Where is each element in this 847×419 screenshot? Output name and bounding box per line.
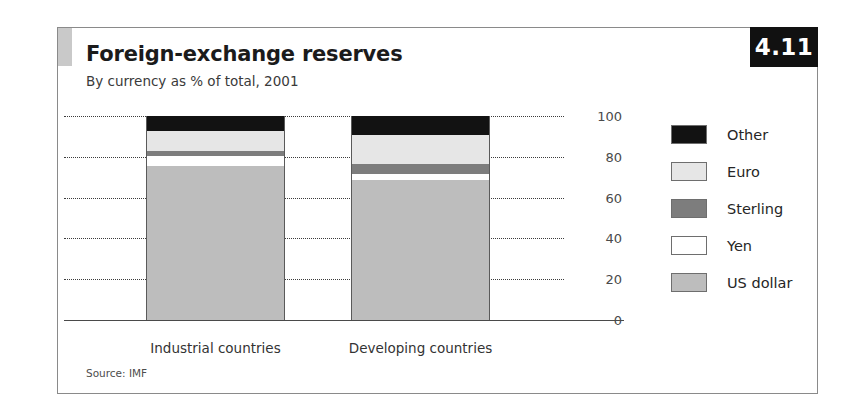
legend-item-euro[interactable]: Euro bbox=[671, 153, 821, 190]
bar-segment-sterling[interactable] bbox=[352, 164, 489, 174]
chart-legend: OtherEuroSterlingYenUS dollar bbox=[671, 116, 821, 301]
axis-baseline bbox=[64, 320, 624, 321]
legend-swatch-icon bbox=[671, 162, 707, 181]
legend-label: Other bbox=[727, 127, 768, 143]
bar-segment-us-dollar[interactable] bbox=[352, 180, 489, 320]
bar-segment-other[interactable] bbox=[352, 116, 489, 135]
figure-subtitle: By currency as % of total, 2001 bbox=[86, 73, 298, 89]
legend-label: US dollar bbox=[727, 275, 792, 291]
bar-segment-sterling[interactable] bbox=[147, 151, 284, 156]
source-note: Source: IMF bbox=[86, 367, 147, 379]
legend-item-us-dollar[interactable]: US dollar bbox=[671, 264, 821, 301]
bar-segment-yen[interactable] bbox=[147, 156, 284, 166]
y-tick-label-60: 60 bbox=[576, 190, 622, 205]
title-accent-strip bbox=[58, 28, 72, 66]
bar-segment-euro[interactable] bbox=[352, 135, 489, 164]
chart-plot-area: 100806040200 Industrial countriesDevelop… bbox=[64, 116, 634, 336]
figure-number-badge: 4.11 bbox=[750, 27, 818, 67]
legend-swatch-icon bbox=[671, 199, 707, 218]
y-tick-label-80: 80 bbox=[576, 149, 622, 164]
bar-segment-us-dollar[interactable] bbox=[147, 166, 284, 320]
legend-label: Yen bbox=[727, 238, 752, 254]
bar-segment-euro[interactable] bbox=[147, 131, 284, 150]
y-tick-label-40: 40 bbox=[576, 231, 622, 246]
category-label-2: Developing countries bbox=[321, 340, 521, 356]
bar-2[interactable] bbox=[351, 116, 490, 320]
legend-label: Sterling bbox=[727, 201, 783, 217]
legend-swatch-icon bbox=[671, 236, 707, 255]
legend-item-sterling[interactable]: Sterling bbox=[671, 190, 821, 227]
bar-1[interactable] bbox=[146, 116, 285, 320]
legend-item-yen[interactable]: Yen bbox=[671, 227, 821, 264]
y-tick-label-100: 100 bbox=[576, 109, 622, 124]
legend-label: Euro bbox=[727, 164, 760, 180]
page-title: Foreign-exchange reserves bbox=[86, 42, 402, 66]
bar-segment-yen[interactable] bbox=[352, 174, 489, 180]
figure-panel: 4.11 Foreign-exchange reserves By curren… bbox=[57, 27, 818, 394]
legend-item-other[interactable]: Other bbox=[671, 116, 821, 153]
legend-swatch-icon bbox=[671, 125, 707, 144]
bar-segment-other[interactable] bbox=[147, 116, 284, 131]
legend-swatch-icon bbox=[671, 273, 707, 292]
category-label-1: Industrial countries bbox=[116, 340, 316, 356]
y-tick-label-20: 20 bbox=[576, 272, 622, 287]
